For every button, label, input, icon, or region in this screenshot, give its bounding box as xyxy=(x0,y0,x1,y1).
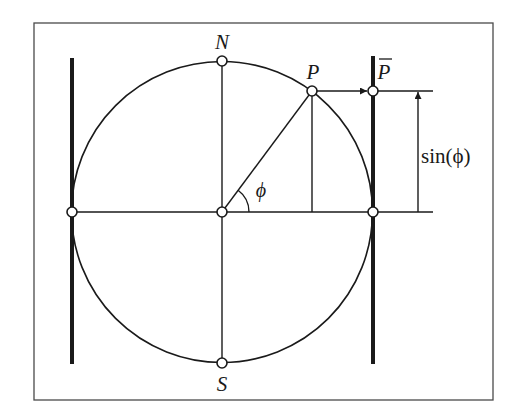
angle-arc xyxy=(238,190,249,212)
cylindrical-projection-diagram: N S P P ϕ sin(ϕ) xyxy=(0,0,518,419)
radius-to-p xyxy=(222,91,312,212)
node-north xyxy=(217,56,227,66)
node-west xyxy=(67,207,77,217)
label-angle: ϕ xyxy=(256,179,266,202)
node-p-bar xyxy=(368,86,378,96)
node-center xyxy=(217,207,227,217)
node-east xyxy=(368,207,378,217)
node-p xyxy=(307,86,317,96)
label-south: S xyxy=(217,372,228,396)
label-north: N xyxy=(214,30,230,54)
node-south xyxy=(217,358,227,368)
label-sin: sin(ϕ) xyxy=(421,144,471,168)
label-p-bar: P xyxy=(377,60,391,84)
label-p: P xyxy=(306,60,320,84)
